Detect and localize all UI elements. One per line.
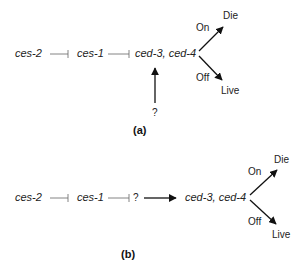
inhibit-edge-ces1-ced xyxy=(108,50,129,58)
panel-label-b: (b) xyxy=(121,248,135,260)
outcome-die: Die xyxy=(223,10,238,21)
off-label: Off xyxy=(196,72,209,83)
node-ces-1: ces-1 xyxy=(77,47,104,59)
panel-a: ces-2 ces-1 ced-3, ced-4 ? Die On Off Li… xyxy=(15,10,240,136)
outcome-die: Die xyxy=(274,154,289,165)
panel-b: ces-2 ces-1 ? ced-3, ced-4 Die On Off Li… xyxy=(15,154,291,260)
node-ced-3-ced-4: ced-3, ced-4 xyxy=(135,47,196,59)
on-label: On xyxy=(248,166,261,177)
node-ces-2: ces-2 xyxy=(15,191,42,203)
outcome-live: Live xyxy=(272,229,291,240)
panel-label-a: (a) xyxy=(133,124,147,136)
node-unknown: ? xyxy=(152,107,158,118)
inhibit-edge-ces1-unknown xyxy=(108,194,129,202)
node-ces-2: ces-2 xyxy=(15,47,42,59)
pathway-diagram: ces-2 ces-1 ced-3, ced-4 ? Die On Off Li… xyxy=(0,0,304,271)
inhibit-edge-ces2-ces1 xyxy=(50,194,68,202)
on-label: On xyxy=(196,22,209,33)
node-ces-1: ces-1 xyxy=(77,191,104,203)
node-ced-3-ced-4: ced-3, ced-4 xyxy=(185,191,246,203)
node-unknown: ? xyxy=(133,192,139,203)
inhibit-edge-ces2-ces1 xyxy=(50,50,68,58)
off-label: Off xyxy=(248,216,261,227)
outcome-live: Live xyxy=(221,85,240,96)
